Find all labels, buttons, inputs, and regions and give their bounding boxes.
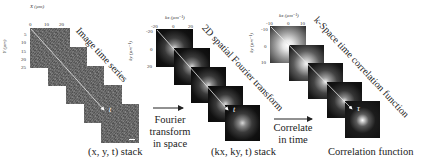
arrows-layer <box>0 0 437 166</box>
time-marker: t <box>233 105 235 114</box>
correlate-operation-label: Correlate in time <box>268 122 318 146</box>
fourier-operation-label: Fourier transform in space <box>148 114 192 150</box>
time-arrow-icon <box>271 27 352 109</box>
time-arrow-icon <box>31 29 104 110</box>
time-arrow-icon <box>157 30 228 110</box>
tau-marker: τ <box>357 104 360 113</box>
time-marker: t <box>109 105 111 114</box>
